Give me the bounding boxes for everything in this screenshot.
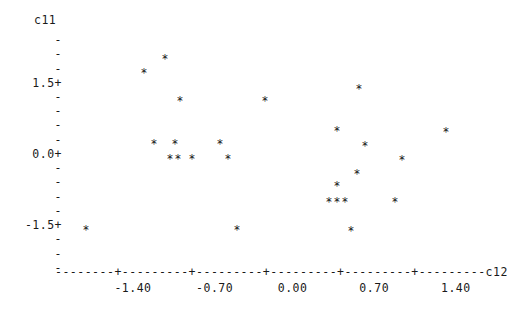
data-point: * <box>333 181 341 193</box>
data-point: * <box>216 139 224 151</box>
data-point: * <box>353 169 361 181</box>
data-point: * <box>347 226 355 238</box>
data-point: * <box>341 197 349 209</box>
y-axis-minor-tick: - <box>0 62 62 76</box>
data-point: * <box>82 225 90 237</box>
character-scatterplot: c11 ---1.5+----0.0+-----1.5+--- --------… <box>0 0 507 313</box>
data-point: * <box>442 127 450 139</box>
data-point: * <box>171 139 179 151</box>
x-axis-tick-labels: -1.40 -0.70 0.00 0.70 1.40 <box>55 282 471 295</box>
y-axis-minor-tick: - <box>0 33 62 47</box>
y-axis-minor-tick: - <box>0 261 62 275</box>
y-axis-major-tick: 1.5+ <box>0 76 62 90</box>
data-point: * <box>176 96 184 108</box>
y-axis-minor-tick: - <box>0 161 62 175</box>
y-axis-minor-tick: - <box>0 190 62 204</box>
data-point: * <box>361 141 369 153</box>
y-axis-title: c11 <box>34 13 56 27</box>
data-point: * <box>333 126 341 138</box>
x-axis-line: --------+---------+---------+---------+-… <box>55 266 507 278</box>
y-axis-minor-tick: - <box>0 175 62 189</box>
data-point: * <box>224 154 232 166</box>
data-point: * <box>174 154 182 166</box>
y-axis-minor-tick: - <box>0 133 62 147</box>
y-axis-minor-tick: - <box>0 104 62 118</box>
y-axis-minor-tick: - <box>0 118 62 132</box>
y-axis-minor-tick: - <box>0 232 62 246</box>
data-point: * <box>398 155 406 167</box>
y-axis-major-tick: -1.5+ <box>0 218 62 232</box>
data-point: * <box>233 225 241 237</box>
data-point: * <box>325 197 333 209</box>
data-point: * <box>355 84 363 96</box>
data-point: * <box>161 54 169 66</box>
data-point: * <box>150 139 158 151</box>
y-axis-minor-tick: - <box>0 247 62 261</box>
data-point: * <box>140 68 148 80</box>
data-point: * <box>188 154 196 166</box>
data-point: * <box>166 154 174 166</box>
y-axis-minor-tick: - <box>0 204 62 218</box>
y-axis-major-tick: 0.0+ <box>0 147 62 161</box>
y-axis-minor-tick: - <box>0 47 62 61</box>
data-point: * <box>333 197 341 209</box>
data-point: * <box>261 96 269 108</box>
data-point: * <box>391 197 399 209</box>
y-axis-minor-tick: - <box>0 90 62 104</box>
